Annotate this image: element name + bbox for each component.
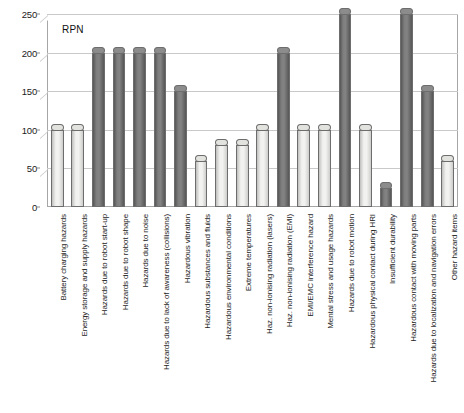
bar-body [51,130,64,207]
bar [318,124,331,207]
bar-cap [215,139,228,146]
bar-slot [396,14,417,207]
bar [174,85,187,207]
bar [51,124,64,207]
x-axis-label: Hazards due to lack of awareness (collis… [163,214,171,404]
bar-body [133,53,146,207]
bar-cap [421,85,434,92]
bar-cap [359,124,372,131]
bar-slot [191,14,212,207]
bar [256,124,269,207]
bar-slot [88,14,109,207]
y-axis-tick-100: 100 [22,124,37,135]
bar-body [71,130,84,207]
bar-slot [211,14,232,207]
bar-cap [92,47,105,54]
bar [400,8,413,207]
rpn-bar-chart-figure: 050100150200250 RPN Battery charging haz… [0,0,464,413]
bar-slot [232,14,253,207]
bar-cap [113,47,126,54]
bar-body [359,130,372,207]
bar [441,155,454,207]
bar-slot [314,14,335,207]
y-axis: 050100150200250 [0,14,40,214]
bar-cap [71,124,84,131]
bar-slot [437,14,458,207]
x-axis-label: Battery charging hazards [60,214,68,404]
bar-cap [339,8,352,15]
bar-body [215,145,228,207]
bar-slot [109,14,130,207]
bar [236,139,249,207]
x-axis-label: Hazardous contact with moving parts [410,214,418,404]
bar-cap [154,47,167,54]
bar [359,124,372,207]
bar-body [277,53,290,207]
bar [339,8,352,207]
bar [215,139,228,207]
bar-cap [400,8,413,15]
bar-slot [355,14,376,207]
y-axis-tick-150: 150 [22,86,37,97]
x-axis-label: Haz. non-ionising radiation (lasers) [266,214,274,404]
bar-slot [150,14,171,207]
bar-body [421,91,434,207]
x-axis-label: Hazards due to localization and navigati… [430,214,438,404]
x-axis-label: Hazardous substances and fluids [204,214,212,404]
bar [71,124,84,207]
bar-slot [294,14,315,207]
bar-series [47,14,458,207]
x-axis-label: EMI/EMC interference hazard [307,214,315,404]
bar-cap [174,85,187,92]
x-axis-label: Hazardous physical contact during HRI [369,214,377,404]
x-axis-label: Hazardous environmental conditions [225,214,233,404]
bar-body [154,53,167,207]
bar-slot [376,14,397,207]
x-axis-label: Extreme temperatures [245,214,253,404]
bar-body [92,53,105,207]
x-axis-label: Hazardous vibration [184,214,192,404]
bar [277,47,290,207]
y-axis-tick-250: 250 [22,9,37,20]
bar-body [380,188,393,207]
x-axis-label: Other hazard items [451,214,459,404]
bar-slot [253,14,274,207]
bar-slot [129,14,150,207]
bar-cap [380,182,393,189]
bar [133,47,146,207]
bar-body [441,161,454,207]
bar-body [236,145,249,207]
bar [154,47,167,207]
bar-body [400,14,413,207]
bar [92,47,105,207]
bar-body [339,14,352,207]
x-axis-label: Haz. non-ionising radiation (EMI) [286,214,294,404]
bar [421,85,434,207]
bar-slot [47,14,68,207]
bar [297,124,310,207]
bar [195,155,208,207]
plot-floor [40,206,458,214]
x-axis-label: Hazards due to robot shape [122,214,130,404]
bar-cap [256,124,269,131]
bar [380,182,393,207]
x-axis-label: Hazards due to robot start-up [101,214,109,404]
bar-cap [318,124,331,131]
bar-slot [417,14,438,207]
x-axis-label: Hazards due to noise [142,214,150,404]
bar-body [297,130,310,207]
bar-body [318,130,331,207]
x-axis-labels: Battery charging hazardsEnergy storage a… [40,214,458,413]
x-axis-label: Energy storage and supply hazards [81,214,89,404]
bar-cap [297,124,310,131]
bar-body [195,161,208,207]
bar-body [256,130,269,207]
bar-body [113,53,126,207]
bar-cap [195,155,208,162]
bar-cap [51,124,64,131]
bar-slot [335,14,356,207]
bar-cap [236,139,249,146]
x-axis-label: Insufficient durability [389,214,397,404]
x-axis-label: Hazards due to robot motion [348,214,356,404]
bar-cap [441,155,454,162]
